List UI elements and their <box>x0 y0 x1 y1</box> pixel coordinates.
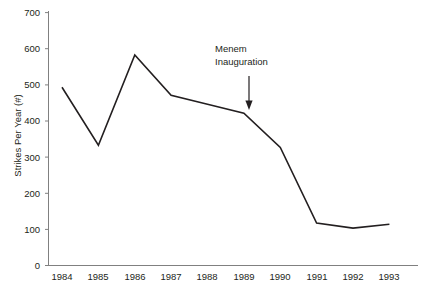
x-tick-label-1993: 1993 <box>369 271 409 282</box>
y-tick-label-100: 100 <box>0 224 40 235</box>
y-tick-marks <box>45 13 48 266</box>
x-tick-label-1987: 1987 <box>151 271 191 282</box>
annotation-label-line1: Menem <box>215 43 247 55</box>
x-tick-label-1989: 1989 <box>224 271 264 282</box>
x-tick-label-1984: 1984 <box>42 271 82 282</box>
y-tick-label-0: 0 <box>0 260 40 271</box>
y-tick-label-500: 500 <box>0 79 40 90</box>
x-tick-label-1991: 1991 <box>297 271 337 282</box>
chart-figure: Strikes Per Year (#) 700 600 500 400 300… <box>0 0 430 294</box>
x-tick-label-1986: 1986 <box>115 271 155 282</box>
annotation-label-line2: Inauguration <box>215 56 268 68</box>
x-tick-label-1990: 1990 <box>260 271 300 282</box>
data-series-line <box>62 55 389 228</box>
y-tick-label-600: 600 <box>0 43 40 54</box>
y-tick-label-300: 300 <box>0 152 40 163</box>
y-tick-label-700: 700 <box>0 7 40 18</box>
y-tick-label-400: 400 <box>0 115 40 126</box>
annotation-arrow <box>245 76 252 110</box>
y-tick-label-200: 200 <box>0 188 40 199</box>
x-tick-label-1985: 1985 <box>78 271 118 282</box>
x-tick-label-1988: 1988 <box>187 271 227 282</box>
y-axis-title: Strikes Per Year (#) <box>12 76 23 196</box>
x-tick-label-1992: 1992 <box>333 271 373 282</box>
